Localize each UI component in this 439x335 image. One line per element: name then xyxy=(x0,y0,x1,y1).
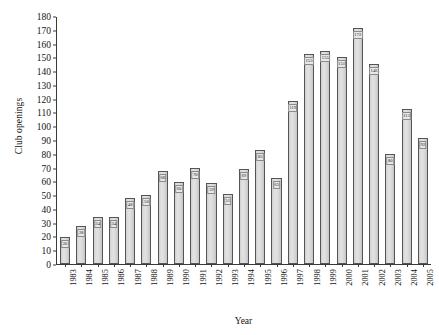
bar-slot: 1512000 xyxy=(333,17,349,264)
bar-slot: 831995 xyxy=(252,17,268,264)
x-tick-label: 1990 xyxy=(182,269,191,286)
x-tick-mark xyxy=(98,264,99,267)
bar-slot: 1722001 xyxy=(350,17,366,264)
x-tick-mark xyxy=(163,264,164,267)
bar-slot: 1551999 xyxy=(317,17,333,264)
bar-value-label: 60 xyxy=(175,185,183,193)
bar-slot: 201983 xyxy=(57,17,73,264)
bar-value-label: 92 xyxy=(419,141,427,149)
bar-value-label: 63 xyxy=(273,181,281,189)
x-tick-label: 1985 xyxy=(101,269,110,286)
bar-slot: 631996 xyxy=(268,17,284,264)
bar-value-label: 113 xyxy=(402,112,412,120)
bar-value-label: 146 xyxy=(369,67,379,75)
x-tick-mark xyxy=(277,264,278,267)
x-tick-mark xyxy=(130,264,131,267)
y-axis-title: Club openings xyxy=(14,76,24,176)
bar-value-label: 119 xyxy=(288,104,298,112)
bar[interactable]: 34 xyxy=(109,217,119,264)
bar[interactable]: 83 xyxy=(255,150,265,264)
bar-value-label: 69 xyxy=(240,172,248,180)
y-tick-mark xyxy=(53,182,56,183)
bar-slot: 481987 xyxy=(122,17,138,264)
bar-slot: 802003 xyxy=(382,17,398,264)
bar-value-label: 20 xyxy=(61,240,69,248)
y-tick-mark xyxy=(53,196,56,197)
bar-slot: 922005 xyxy=(415,17,431,264)
y-tick-mark xyxy=(53,168,56,169)
x-tick-label: 1986 xyxy=(117,269,126,286)
y-tick-mark xyxy=(53,154,56,155)
bar[interactable]: 20 xyxy=(60,237,70,264)
bar-slot: 681989 xyxy=(155,17,171,264)
bar[interactable]: 34 xyxy=(93,217,103,264)
x-tick-label: 1994 xyxy=(247,269,256,286)
x-tick-label: 1998 xyxy=(313,269,322,286)
bar[interactable]: 68 xyxy=(158,171,168,264)
y-tick-mark xyxy=(53,72,56,73)
x-tick-mark xyxy=(358,264,359,267)
bar-slot: 1191997 xyxy=(285,17,301,264)
y-tick-mark xyxy=(53,85,56,86)
bar[interactable]: 60 xyxy=(174,182,184,264)
y-tick-mark xyxy=(53,223,56,224)
bar[interactable]: 69 xyxy=(239,169,249,264)
bar-slot: 691994 xyxy=(236,17,252,264)
bar-value-label: 83 xyxy=(256,153,264,161)
bar[interactable]: 70 xyxy=(190,168,200,264)
bar-slot: 1531998 xyxy=(301,17,317,264)
x-axis-title: Year xyxy=(56,316,431,326)
x-tick-label: 1984 xyxy=(85,269,94,286)
x-tick-mark xyxy=(309,264,310,267)
bar[interactable]: 146 xyxy=(369,64,379,264)
bar[interactable]: 151 xyxy=(337,57,347,264)
x-tick-label: 1999 xyxy=(329,269,338,286)
plot-area: 0102030405060708090100110120130140150160… xyxy=(56,17,431,265)
bar-value-label: 70 xyxy=(191,171,199,179)
bar-slot: 1132004 xyxy=(398,17,414,264)
x-tick-label: 2004 xyxy=(410,269,419,286)
bar[interactable]: 59 xyxy=(206,183,216,264)
bar[interactable]: 92 xyxy=(418,138,428,264)
bar-value-label: 28 xyxy=(78,229,86,237)
bar-value-label: 153 xyxy=(304,57,314,65)
bar[interactable]: 113 xyxy=(402,109,412,264)
bar[interactable]: 155 xyxy=(320,51,330,264)
x-tick-label: 2005 xyxy=(426,269,435,286)
bar-value-label: 34 xyxy=(94,220,102,228)
bar[interactable]: 80 xyxy=(385,154,395,264)
bar-value-label: 151 xyxy=(337,60,347,68)
bar-value-label: 80 xyxy=(387,157,395,165)
bar-series: 2019832819843419853419864819875019886819… xyxy=(57,17,431,264)
bar-slot: 511993 xyxy=(220,17,236,264)
bar-value-label: 34 xyxy=(110,220,118,228)
x-tick-mark xyxy=(81,264,82,267)
y-tick-mark xyxy=(53,113,56,114)
x-tick-label: 1983 xyxy=(69,269,78,286)
y-tick-mark xyxy=(53,44,56,45)
bar[interactable]: 153 xyxy=(304,54,314,264)
x-tick-label: 1991 xyxy=(199,269,208,286)
x-tick-mark xyxy=(342,264,343,267)
bar[interactable]: 50 xyxy=(141,195,151,264)
bar-slot: 341986 xyxy=(106,17,122,264)
x-tick-mark xyxy=(260,264,261,267)
y-tick-mark xyxy=(53,58,56,59)
bar-value-label: 68 xyxy=(159,174,167,182)
x-tick-label: 2003 xyxy=(394,269,403,286)
bar-slot: 341985 xyxy=(90,17,106,264)
bar[interactable]: 51 xyxy=(223,194,233,264)
bar[interactable]: 28 xyxy=(76,226,86,264)
bar[interactable]: 119 xyxy=(288,101,298,264)
bar[interactable]: 172 xyxy=(353,28,363,264)
bar-value-label: 172 xyxy=(353,31,363,39)
x-tick-mark xyxy=(244,264,245,267)
bar-slot: 591992 xyxy=(203,17,219,264)
y-tick-mark xyxy=(53,265,56,266)
bar[interactable]: 63 xyxy=(271,178,281,264)
x-tick-mark xyxy=(195,264,196,267)
x-tick-label: 2002 xyxy=(378,269,387,286)
bar[interactable]: 48 xyxy=(125,198,135,264)
y-tick-mark xyxy=(53,99,56,100)
bar-value-label: 59 xyxy=(208,186,216,194)
